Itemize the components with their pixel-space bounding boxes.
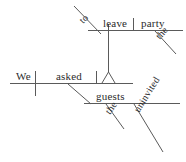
word-verb: asked — [56, 70, 82, 82]
tripod-leg-right — [109, 72, 116, 83]
tripod-leg-left — [102, 72, 109, 83]
infinitive-stem-group — [102, 31, 115, 84]
sentence-diagram: We asked to leave party the guests the u… — [0, 0, 186, 162]
word-object-adjective: uninvited — [131, 75, 161, 114]
diagram-canvas: We asked to leave party the guests the u… — [0, 0, 186, 162]
word-infinitive-verb: leave — [103, 17, 127, 29]
word-infinitive-marker: to — [77, 12, 91, 26]
word-subject: We — [16, 70, 31, 82]
object-branch-slant-line — [68, 84, 91, 104]
